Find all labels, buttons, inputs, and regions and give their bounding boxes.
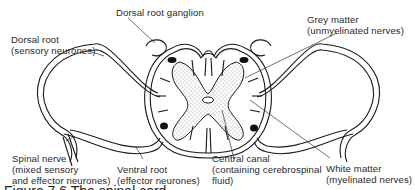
label-central-canal-desc1: (containing cerebrospinal [212, 164, 322, 175]
label-spinal-nerve: Spinal nerve [12, 153, 67, 164]
label-white-matter: White matter [326, 163, 382, 174]
label-white-matter-desc: (myelinated nerves) [326, 174, 412, 185]
figure-caption: Figure 7.6 The spinal cord [4, 184, 166, 190]
label-spinal-nerve-desc1: (mixed sensory [12, 164, 78, 175]
left-nerve-loop [37, 40, 166, 166]
central-canal [203, 97, 214, 103]
label-central-canal-desc2: fluid) [212, 175, 233, 186]
label-ventral-root: Ventral root [117, 164, 167, 175]
right-nerve-loop [251, 40, 380, 162]
label-grey-matter-desc: (unmyelinated nerves) [307, 25, 404, 36]
label-central-canal: Central canal [212, 153, 270, 164]
label-dorsal-root: Dorsal root [11, 34, 59, 45]
label-grey-matter: Grey matter [307, 14, 359, 25]
label-dorsal-root-desc: (sensory neurones) [11, 45, 95, 56]
label-dorsal-root-ganglion: Dorsal root ganglion [116, 7, 204, 18]
